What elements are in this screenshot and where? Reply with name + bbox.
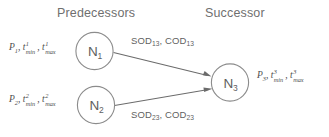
edge-label-n2-n3: SOD23, COD23 xyxy=(131,109,194,120)
param-comma-2: , xyxy=(285,70,287,80)
param-label-n2: P2, t2min, t2max xyxy=(9,94,57,106)
param-t1-superscript: 1 xyxy=(26,40,29,47)
node-n2[interactable]: N 2 xyxy=(77,86,114,123)
edge-n2-to-n3 xyxy=(115,87,213,105)
edge-n1-to-n3-arrowhead xyxy=(203,71,212,77)
param-label-n1: P1, t1min, t1max xyxy=(9,42,57,54)
edge-label-sod-subscript: 23 xyxy=(152,114,160,121)
param-comma-1: , xyxy=(18,42,20,52)
param-label-n3: P3, t3min, t3max xyxy=(257,70,305,82)
diagram-canvas: Predecessors Successor N 1 N 2 N xyxy=(0,0,329,137)
edge-n2-to-n3-line xyxy=(115,90,209,106)
param-t2-superscript: 2 xyxy=(45,92,48,99)
edge-label-sod-subscript: 13 xyxy=(152,40,160,47)
edge-label-cod-base: COD xyxy=(165,109,186,120)
param-t2-subscript: max xyxy=(45,48,56,55)
edge-label-n1-n3: SOD13, COD13 xyxy=(131,35,194,46)
node-n2-label: N xyxy=(90,98,100,113)
param-t1-superscript: 2 xyxy=(26,92,29,99)
param-comma-2: , xyxy=(37,42,39,52)
node-n1-subscript: 1 xyxy=(98,51,103,61)
param-t1-subscript: min xyxy=(26,48,35,55)
node-n3-label: N xyxy=(224,76,234,91)
param-t2-superscript: 1 xyxy=(45,40,48,47)
edge-label-cod-base: COD xyxy=(165,35,186,46)
edge-label-cod-subscript: 23 xyxy=(186,114,194,121)
param-t2-subscript: max xyxy=(45,100,56,107)
param-t2-superscript: 3 xyxy=(293,68,296,75)
param-t1-subscript: min xyxy=(274,76,283,83)
node-n3[interactable]: N 3 xyxy=(211,64,248,101)
node-n2-subscript: 2 xyxy=(99,105,104,115)
param-t2-subscript: max xyxy=(293,76,304,83)
param-comma-1: , xyxy=(18,94,20,104)
param-comma-2: , xyxy=(37,94,39,104)
edge-label-sod-base: SOD xyxy=(131,35,152,46)
node-n1-label: N xyxy=(88,44,98,59)
param-t1-subscript: min xyxy=(26,100,35,107)
param-t1-superscript: 3 xyxy=(274,68,277,75)
edge-n2-to-n3-arrowhead xyxy=(203,87,212,92)
node-n1[interactable]: N 1 xyxy=(76,32,113,69)
node-n3-subscript: 3 xyxy=(233,83,238,93)
edge-label-sod-base: SOD xyxy=(131,109,152,120)
edge-n1-to-n3-line xyxy=(114,53,208,76)
param-comma-1: , xyxy=(266,70,268,80)
edge-n1-to-n3 xyxy=(114,53,212,77)
edge-label-cod-subscript: 13 xyxy=(186,40,194,47)
